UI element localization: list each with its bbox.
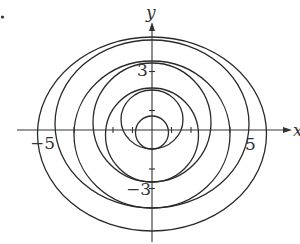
x-axis-label: x <box>293 120 300 140</box>
bullet-dot <box>1 15 4 18</box>
x-axis-arrow-icon <box>283 127 292 133</box>
y-axis-arrow-icon <box>149 22 155 31</box>
x-tick-label-5: 5 <box>245 134 256 154</box>
y-axis-label: y <box>145 2 156 22</box>
y-tick-label-3: 3 <box>137 60 148 80</box>
x-tick-label-neg5: −5 <box>30 133 55 153</box>
level-curves-diagram: x y −5 5 3 −3 <box>0 0 300 244</box>
y-tick-label-neg3: −3 <box>126 179 151 199</box>
